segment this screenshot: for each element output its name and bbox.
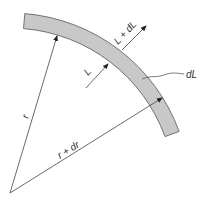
radius-r-arrow <box>10 36 57 193</box>
label-r-plus-dr: r + dr <box>55 138 81 160</box>
radius-r-plus-dr-arrow <box>10 98 162 193</box>
arc-band-element <box>24 14 180 137</box>
label-r: r <box>19 113 31 120</box>
label-L: L <box>81 66 93 78</box>
arc-element-diagram: r r + dr L L + dL dL <box>0 0 205 202</box>
label-dL: dL <box>186 69 197 80</box>
label-L-plus-dL: L + dL <box>111 18 138 46</box>
